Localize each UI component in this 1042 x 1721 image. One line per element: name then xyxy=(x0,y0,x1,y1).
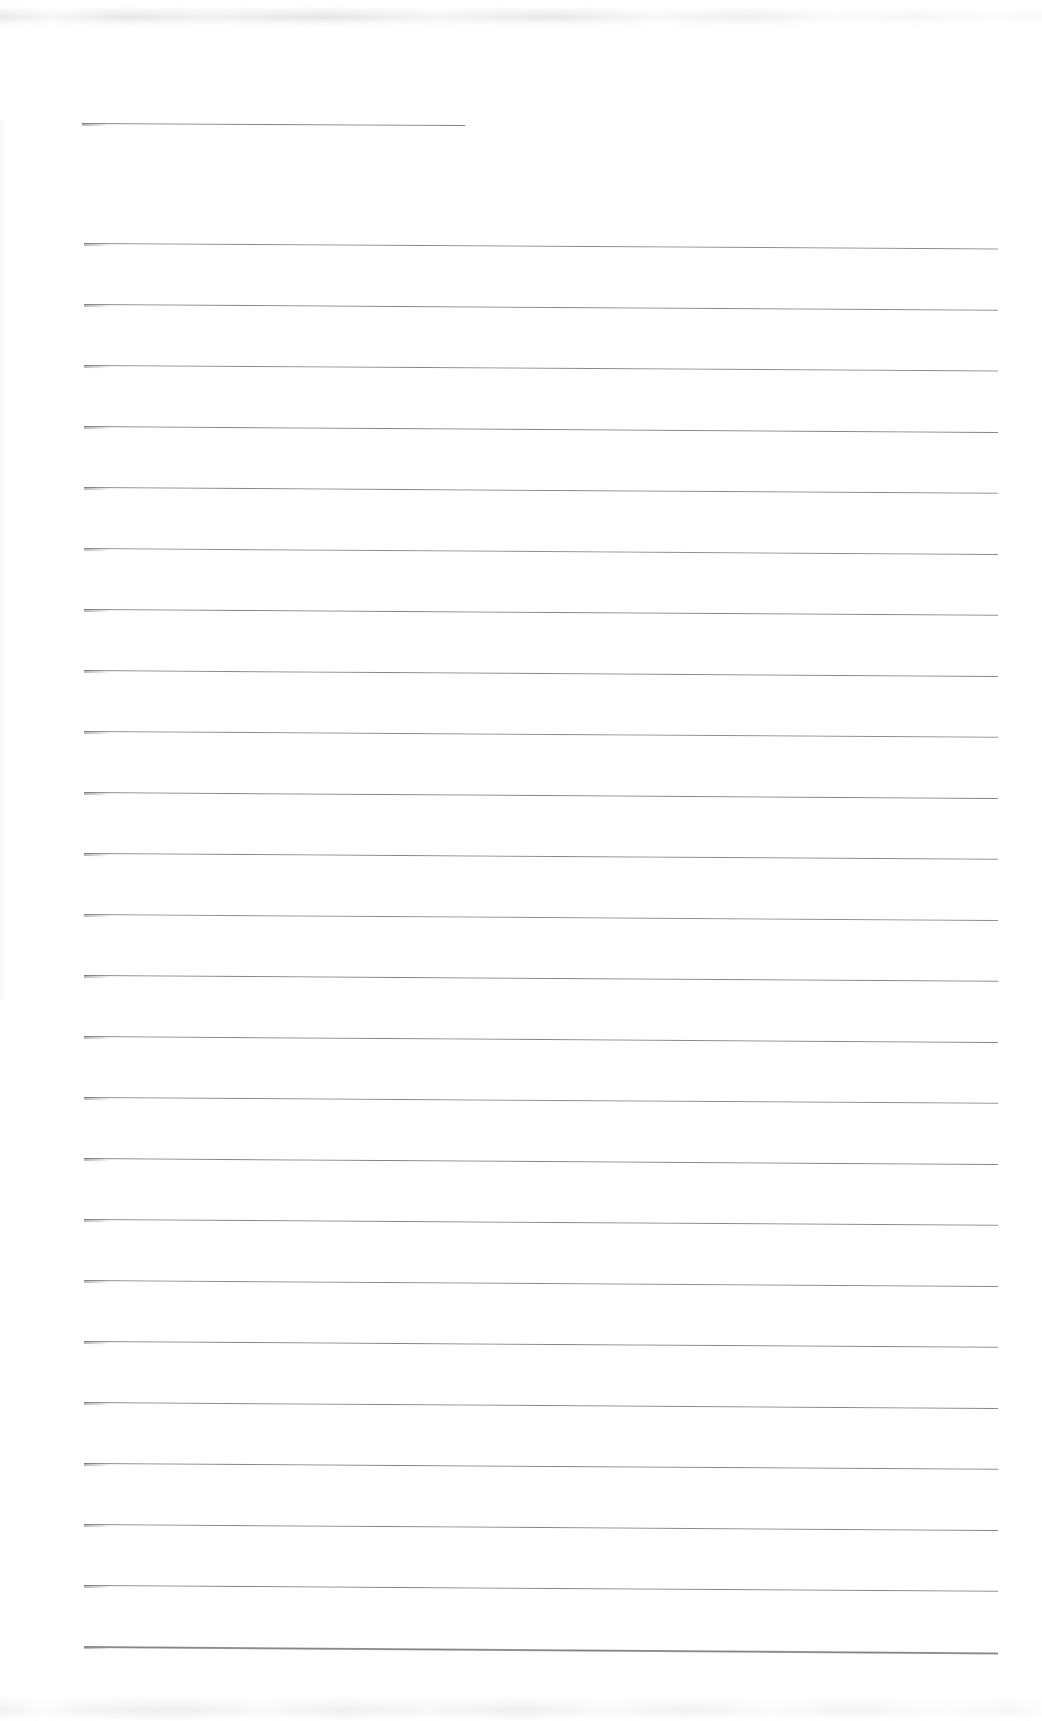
rule-stroke xyxy=(84,1097,998,1104)
rule-stroke xyxy=(84,731,998,738)
rule-line xyxy=(84,1219,998,1226)
rule-stroke xyxy=(84,304,998,311)
rule-line xyxy=(84,304,998,311)
rule-stroke xyxy=(84,1646,998,1654)
rule-line xyxy=(84,365,998,372)
rule-stroke xyxy=(84,1219,998,1226)
rule-line xyxy=(84,487,998,494)
rule-line xyxy=(84,1097,998,1104)
scanned-page xyxy=(0,0,1042,1721)
rule-stroke xyxy=(84,1280,998,1287)
rule-line xyxy=(84,1402,998,1409)
rule-line xyxy=(84,792,998,799)
rule-line xyxy=(84,1036,998,1043)
rule-line xyxy=(84,548,998,555)
rule-stroke xyxy=(82,123,465,126)
rule-stroke xyxy=(84,792,998,799)
rule-stroke xyxy=(84,670,998,677)
rule-stroke xyxy=(84,1463,998,1470)
rule-line xyxy=(84,853,998,860)
rule-stroke xyxy=(84,1036,998,1043)
rule-line xyxy=(84,1585,998,1592)
rule-stroke xyxy=(84,853,998,860)
rule-stroke xyxy=(84,1585,998,1592)
rule-stroke xyxy=(84,609,998,616)
rule-line xyxy=(84,1463,998,1470)
rule-line xyxy=(84,1524,998,1531)
rule-stroke xyxy=(84,426,998,433)
rule-line xyxy=(84,1646,998,1654)
rule-stroke xyxy=(84,1341,998,1348)
rule-stroke xyxy=(84,914,998,921)
rule-line xyxy=(84,914,998,921)
rule-stroke xyxy=(84,1524,998,1531)
rule-line xyxy=(84,426,998,433)
rule-stroke xyxy=(84,975,998,982)
rule-line xyxy=(84,1341,998,1348)
rule-stroke xyxy=(84,487,998,494)
rule-stroke xyxy=(84,243,998,250)
rule-stroke xyxy=(84,365,998,372)
header-rule-line xyxy=(82,123,465,126)
rule-stroke xyxy=(84,548,998,555)
rule-line xyxy=(84,609,998,616)
rule-line xyxy=(84,1280,998,1287)
ruled-lines-layer xyxy=(0,0,1042,1721)
rule-stroke xyxy=(84,1402,998,1409)
rule-line xyxy=(84,975,998,982)
rule-line xyxy=(84,731,998,738)
rule-line xyxy=(84,243,998,250)
rule-line xyxy=(84,1158,998,1165)
rule-stroke xyxy=(84,1158,998,1165)
rule-line xyxy=(84,670,998,677)
